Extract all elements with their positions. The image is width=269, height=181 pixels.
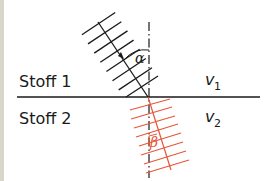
alpha-label: α — [135, 50, 145, 66]
refracted-wavefront — [130, 99, 170, 110]
incident-wavefront — [119, 68, 152, 90]
medium-2-label: Stoff 2 — [19, 109, 72, 128]
beta-label: β — [149, 134, 158, 150]
incident-wavefront — [126, 76, 158, 97]
incident-wavefront — [88, 22, 121, 44]
refraction-diagram: α β Stoff 1 Stoff 2 v 1 v 2 — [0, 0, 269, 181]
incident-wave — [82, 13, 158, 98]
velocity-2-subscript: 2 — [214, 117, 221, 130]
velocity-1-subscript: 1 — [214, 80, 221, 93]
refracted-wave — [130, 97, 189, 173]
incident-wavefront — [82, 13, 115, 35]
incident-wavefront — [100, 40, 133, 62]
medium-1-label: Stoff 1 — [19, 72, 72, 91]
incident-wavefront — [94, 31, 127, 53]
